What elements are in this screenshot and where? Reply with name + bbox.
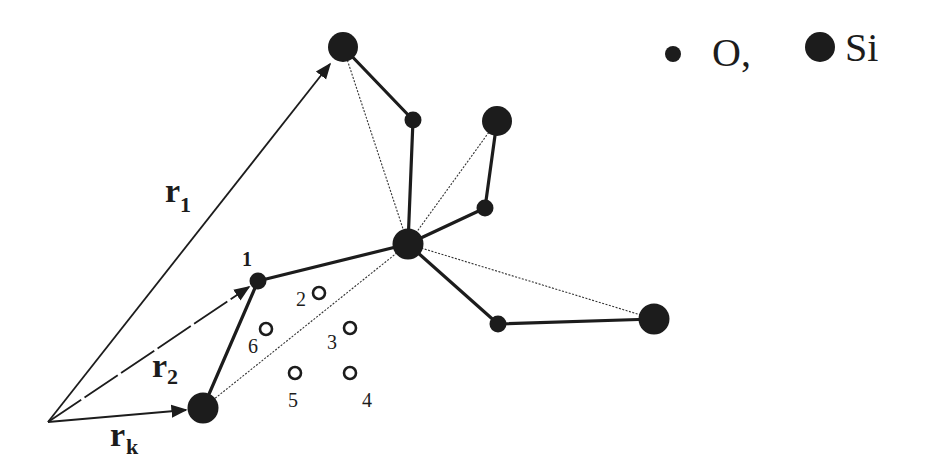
- legend-oxygen-label: O,: [712, 30, 751, 75]
- legend: O, Si: [665, 25, 878, 75]
- label-rk: r k: [110, 416, 139, 459]
- si-atom-top: [328, 32, 358, 62]
- o-atom-right: [477, 200, 494, 217]
- si-atom-upper-right: [482, 106, 512, 136]
- svg-text:1: 1: [180, 192, 191, 217]
- site-2: [313, 287, 325, 299]
- label-r1: r 1: [165, 172, 191, 217]
- site-5: [289, 367, 301, 379]
- site-3: [344, 322, 356, 334]
- vector-r2: [48, 287, 249, 422]
- legend-oxygen-icon: [665, 46, 681, 62]
- label-site-5: 5: [288, 389, 298, 411]
- svg-text:r: r: [110, 416, 125, 453]
- silica-structure-diagram: 1 2 6 3 5 4 r 1 r 2 r k O, Si: [0, 0, 926, 476]
- position-vectors: [48, 64, 330, 422]
- site-4: [344, 367, 356, 379]
- site-6: [260, 323, 272, 335]
- o-atom-upper: [405, 112, 422, 129]
- si-atom-central: [393, 229, 424, 260]
- label-site-4: 4: [362, 389, 372, 411]
- label-r2: r 2: [152, 347, 178, 389]
- si-atom-far-right: [639, 304, 670, 335]
- si-atom-bottom-left: [188, 393, 219, 424]
- atoms: [188, 32, 670, 424]
- legend-silicon-icon: [805, 32, 835, 62]
- svg-text:k: k: [126, 434, 139, 459]
- label-site-6: 6: [248, 335, 258, 357]
- svg-text:r: r: [152, 347, 167, 384]
- legend-silicon-label: Si: [845, 25, 878, 70]
- o-atom-1: [250, 273, 267, 290]
- si-si-dashed-lines: [203, 47, 654, 408]
- open-sites: [260, 287, 356, 379]
- svg-text:2: 2: [167, 364, 178, 389]
- label-site-2: 2: [296, 288, 306, 310]
- vector-r1: [48, 64, 330, 422]
- svg-text:r: r: [165, 172, 180, 209]
- o-atom-lower-right: [490, 316, 507, 333]
- label-site-3: 3: [327, 331, 337, 353]
- label-atom-1: 1: [242, 248, 252, 270]
